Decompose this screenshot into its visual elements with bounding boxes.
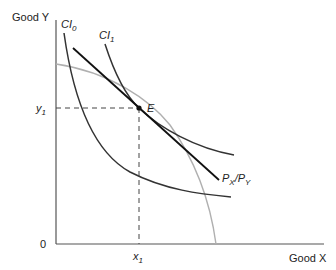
origin-label: 0 xyxy=(40,238,46,250)
ci1-label: CI1 xyxy=(99,29,114,44)
ci0-label: CI0 xyxy=(61,18,77,33)
x-axis-label: Good X xyxy=(289,252,327,264)
x1-label: x1 xyxy=(132,250,143,265)
budget-line-label: PX/PY xyxy=(222,172,251,187)
equilibrium-point xyxy=(136,105,141,110)
indifference-curve-diagram: Good Y Good X 0 y1 x1 E CI0 CI1 PX/PY xyxy=(0,0,336,270)
y-axis-label: Good Y xyxy=(12,11,50,23)
ppf-curve xyxy=(56,64,216,244)
point-e-label: E xyxy=(147,102,155,114)
indifference-curve-ci1 xyxy=(105,44,234,155)
budget-line xyxy=(73,48,219,180)
y1-label: y1 xyxy=(35,102,46,117)
